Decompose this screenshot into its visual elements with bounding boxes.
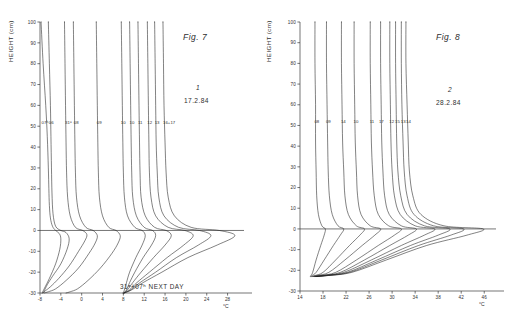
figure-7-note: 31ᵃ+07ʰ NEXT DAY [120, 283, 184, 290]
figure-8-y-tick-50: 50 [290, 123, 296, 128]
figure-7-curve-4 [66, 22, 120, 293]
figure-7-curve-label-0: 07ʰ [42, 120, 49, 125]
figure-7-curve-labels: 07ʰ0631ᵃ0809101011121316+17 [42, 120, 176, 125]
figure-8-y-tick-100: 100 [288, 20, 296, 25]
figure-7-x-tick-8: 8 [122, 297, 125, 302]
figure-8-y-tick-20: 20 [290, 185, 296, 190]
figure-8-y-tick-90: 90 [290, 40, 296, 45]
figure-7-curve-5 [121, 22, 145, 293]
figure-8: 1009080706050403020100-10-20-30141822263… [258, 0, 513, 322]
figure-8-y-tick--10: -10 [289, 247, 296, 252]
figure-7-y-tick-100: 100 [28, 20, 36, 25]
figure-8-curve-label-1: 09 [326, 119, 331, 124]
figure-8-curve-label-2: 14 [341, 119, 346, 124]
figure-7-curve-label-8: 12 [147, 120, 152, 125]
figure-7-curve-label-4: 09 [97, 120, 102, 125]
figure-7-curve-label-3: 08 [74, 120, 79, 125]
figure-page: 1009080706050403020100-10-20-30-8-404812… [0, 0, 513, 322]
figure-7-curve-9 [124, 22, 211, 293]
figure-7-plot: 1009080706050403020100-10-20-30-8-404812… [0, 0, 260, 322]
figure-8-x-tick-26: 26 [366, 295, 372, 300]
figure-7-x-tick--4: -4 [59, 297, 64, 302]
figure-8-curve-label-9: 14 [406, 119, 411, 124]
figure-7-curves [41, 22, 235, 293]
figure-7-x-tick-12: 12 [142, 297, 148, 302]
figure-7-x-axis-unit: °C [223, 303, 229, 309]
figure-8-plot: 1009080706050403020100-10-20-30141822263… [258, 0, 513, 322]
figure-7-title: Fig. 7 [183, 32, 207, 42]
figure-7-curve-label-2: 31ᵃ [65, 120, 72, 125]
figure-7-y-tick-0: 0 [33, 228, 36, 233]
figure-7-curve-3 [44, 22, 97, 293]
figure-7: 1009080706050403020100-10-20-30-8-404812… [0, 0, 260, 322]
figure-8-curve-label-3: 10 [354, 119, 359, 124]
figure-7-y-tick-10: 10 [30, 207, 36, 212]
figure-7-x-tick-4: 4 [101, 297, 104, 302]
figure-7-x-tick-24: 24 [204, 297, 210, 302]
figure-7-curve-label-9: 13 [155, 120, 160, 125]
figure-8-curve-labels: 08091410111712151314 [314, 119, 411, 124]
figure-7-y-tick--30: -30 [29, 291, 36, 296]
figure-8-mark: 2 [447, 86, 452, 93]
figure-8-date: 28.2.84 [436, 99, 461, 106]
figure-7-y-tick-20: 20 [30, 186, 36, 191]
figure-7-x-tick-20: 20 [183, 297, 189, 302]
figure-7-y-tick-90: 90 [30, 41, 36, 46]
figure-7-y-tick-40: 40 [30, 145, 36, 150]
figure-7-curve-label-1: 06 [49, 120, 54, 125]
figure-7-curve-10 [124, 22, 234, 293]
figure-8-y-tick--20: -20 [289, 268, 296, 273]
figure-8-y-tick-0: 0 [293, 227, 296, 232]
figure-8-x-axis-unit: °C [479, 301, 485, 307]
figure-8-curve-6 [315, 22, 435, 277]
figure-7-tick-labels: 1009080706050403020100-10-20-30-8-404812… [28, 20, 231, 303]
figure-8-curve-9 [317, 22, 484, 277]
figure-7-curve-label-7: 11 [138, 120, 143, 125]
figure-7-y-tick-50: 50 [30, 124, 36, 129]
figure-7-curve-label-6: 10 [130, 120, 135, 125]
figure-8-y-tick-60: 60 [290, 102, 296, 107]
figure-8-y-tick-70: 70 [290, 82, 296, 87]
figure-7-x-tick-0: 0 [80, 297, 83, 302]
figure-8-x-tick-22: 22 [343, 295, 349, 300]
figure-8-x-tick-38: 38 [436, 295, 442, 300]
figure-8-y-tick-80: 80 [290, 61, 296, 66]
figure-7-curve-2 [43, 22, 87, 293]
figure-7-y-tick-30: 30 [30, 166, 36, 171]
figure-7-x-tick--8: -8 [38, 297, 43, 302]
figure-7-x-tick-16: 16 [162, 297, 168, 302]
figure-8-title: Fig. 8 [436, 32, 460, 42]
figure-8-x-tick-34: 34 [412, 295, 418, 300]
figure-8-curve-label-4: 11 [370, 119, 375, 124]
figure-8-x-tick-14: 14 [297, 295, 303, 300]
figure-7-y-tick-60: 60 [30, 103, 36, 108]
figure-8-y-tick-10: 10 [290, 206, 296, 211]
figure-7-curve-label-10: 16+17 [163, 120, 176, 125]
figure-7-y-tick--20: -20 [29, 270, 36, 275]
figure-7-date: 17.2.84 [184, 97, 209, 104]
figure-8-y-tick--30: -30 [289, 289, 296, 294]
figure-7-y-tick-80: 80 [30, 61, 36, 66]
figure-8-curve-label-5: 17 [379, 119, 384, 124]
figure-7-y-axis-label: HEIGHT (cm) [7, 20, 14, 62]
figure-7-y-tick-70: 70 [30, 82, 36, 87]
figure-7-curve-7 [124, 22, 172, 293]
figure-8-curve-7 [316, 22, 451, 277]
figure-7-y-tick--10: -10 [29, 249, 36, 254]
figure-8-x-tick-42: 42 [459, 295, 465, 300]
figure-7-curve-0 [41, 22, 61, 293]
figure-8-y-axis-label: HEIGHT (cm) [265, 20, 272, 62]
figure-8-y-tick-40: 40 [290, 144, 296, 149]
figure-8-tick-labels: 1009080706050403020100-10-20-30141822263… [288, 20, 487, 301]
figure-7-x-tick-28: 28 [225, 297, 231, 302]
figure-7-axes [37, 22, 252, 296]
figure-8-curve-0 [310, 22, 325, 277]
figure-8-curves [310, 22, 484, 277]
figure-7-curve-label-5: 10 [121, 120, 126, 125]
figure-8-curve-label-6: 12 [389, 119, 394, 124]
figure-8-curve-label-0: 08 [314, 119, 319, 124]
figure-8-x-tick-46: 46 [482, 295, 488, 300]
figure-8-x-tick-30: 30 [389, 295, 395, 300]
figure-7-mark: 1 [196, 84, 200, 91]
figure-8-x-tick-18: 18 [320, 295, 326, 300]
